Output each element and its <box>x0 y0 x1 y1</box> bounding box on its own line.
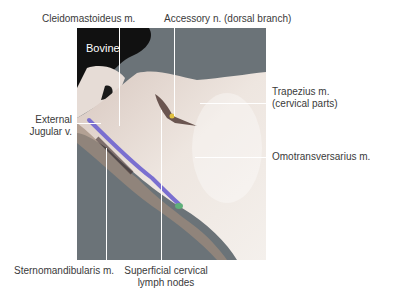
label-trapezius-line1: Trapezius m. <box>272 86 338 98</box>
leader-line-cleidomastoideus <box>119 28 120 126</box>
species-label: Bovine <box>86 42 120 54</box>
leader-line-omotransversarius <box>195 157 266 158</box>
leader-line-superficial-cervical <box>161 110 162 260</box>
leader-line-sternomandibularis <box>106 148 107 260</box>
label-cleidomastoideus: Cleidomastoideus m. <box>42 13 135 25</box>
label-trapezius: Trapezius m. (cervical parts) <box>272 86 338 110</box>
leader-line-accessory <box>174 28 175 116</box>
label-external-jugular-line2: Jugular v. <box>20 126 72 138</box>
label-accessory-nerve: Accessory n. (dorsal branch) <box>164 13 291 25</box>
label-omotransversarius: Omotransversarius m. <box>272 151 370 163</box>
leader-line-trapezius <box>200 103 266 104</box>
label-superficial-cervical-line2: lymph nodes <box>121 277 211 289</box>
label-sternomandibularis: Sternomandibularis m. <box>14 265 114 277</box>
leader-line-external-jugular <box>77 123 101 124</box>
label-external-jugular: External Jugular v. <box>20 114 72 138</box>
label-trapezius-line2: (cervical parts) <box>272 98 338 110</box>
label-superficial-cervical-line1: Superficial cervical <box>121 265 211 277</box>
label-superficial-cervical: Superficial cervical lymph nodes <box>121 265 211 289</box>
label-external-jugular-line1: External <box>20 114 72 126</box>
